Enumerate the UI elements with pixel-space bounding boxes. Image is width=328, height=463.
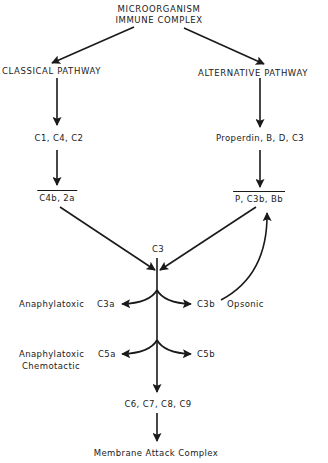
alternative-convertase-label: P, C3b, Bb [233,191,285,204]
c5b-label: C5b [197,350,215,359]
classical-convertase-label: C4b, 2a [37,190,77,203]
arrow-classical-convertase-to-c3 [60,207,155,270]
classical-components-label: C1, C4, C2 [35,134,84,143]
arrow-to-c3a [122,290,157,304]
source-label-line2: IMMUNE COMPLEX [115,16,202,25]
c3a-role-label: Anaphylatoxic [19,300,84,309]
alternative-pathway-label: ALTERNATIVE PATHWAY [198,69,308,78]
c5a-label: C5a [98,350,116,359]
c5a-role-label-line1: Anaphylatoxic [19,350,84,359]
arrow-source-to-alternative [184,28,264,64]
classical-pathway-label: CLASSICAL PATHWAY [2,67,101,76]
arrow-to-c5b [157,340,191,354]
c3a-label: C3a [97,300,115,309]
alternative-components-label: Properdin, B, D, C3 [216,134,304,143]
c3b-role-label: Opsonic [227,300,264,309]
arrow-source-to-classical [52,27,134,63]
arrow-to-c5a [122,340,157,354]
c3-label: C3 [152,245,164,254]
arrow-alternative-convertase-to-c3 [160,207,256,270]
c5a-role-label-line2: Chemotactic [22,362,80,371]
c3b-label: C3b [197,300,215,309]
terminal-components-label: C6, C7, C8, C9 [124,400,191,409]
arrow-to-c3b [157,290,191,304]
membrane-attack-complex-label: Membrane Attack Complex [94,449,219,458]
source-label-line1: MICROORGANISM [118,5,201,14]
